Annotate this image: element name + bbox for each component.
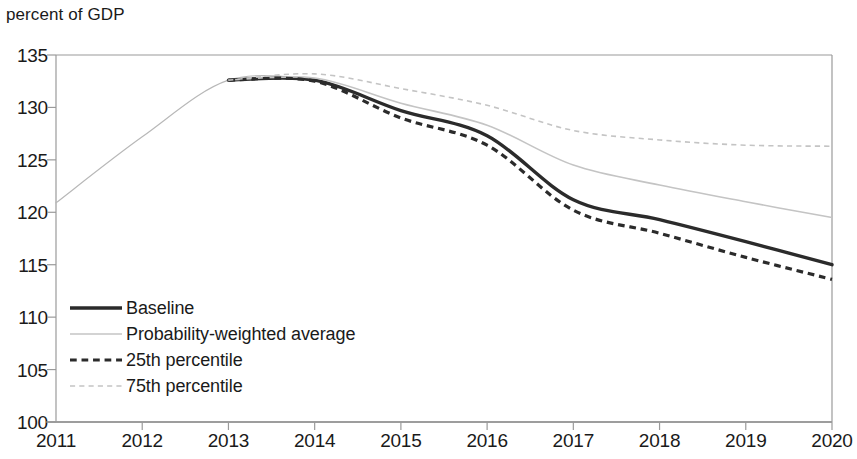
x-axis-tick-label: 2014 [276,431,354,450]
legend-item: 25th percentile [68,347,428,373]
x-axis-tick-label: 2019 [707,431,785,450]
series-line-probability-weighted-average [228,77,832,218]
x-axis-tick-label: 2011 [17,431,95,450]
chart-legend: BaselineProbability-weighted average25th… [68,295,428,399]
x-axis-tick-label: 2015 [362,431,440,450]
legend-item: Probability-weighted average [68,321,428,347]
chart-series [56,74,832,280]
x-axis-tick-labels: 2011201220132014201520162017201820192020 [0,431,838,457]
legend-item-label: Baseline [124,299,194,317]
x-axis-tick-label: 2016 [448,431,526,450]
legend-swatch-icon [68,379,124,393]
series-line-history [56,76,315,203]
x-axis-tick-label: 2018 [621,431,699,450]
legend-swatch-icon [68,353,124,367]
legend-item-label: 25th percentile [124,351,243,369]
legend-swatch-icon [68,301,124,315]
x-axis-tick-label: 2013 [189,431,267,450]
legend-item-label: Probability-weighted average [124,325,355,343]
legend-swatch-icon [68,327,124,341]
legend-item: 75th percentile [68,373,428,399]
series-line-25th-percentile [228,78,832,279]
x-axis-tick-label: 2020 [793,431,857,450]
series-line-baseline [228,78,832,265]
legend-item-label: 75th percentile [124,377,243,395]
legend-item: Baseline [68,295,428,321]
x-axis-tick-label: 2012 [103,431,181,450]
series-line-75th-percentile [228,74,832,147]
x-axis-tick-label: 2017 [534,431,612,450]
